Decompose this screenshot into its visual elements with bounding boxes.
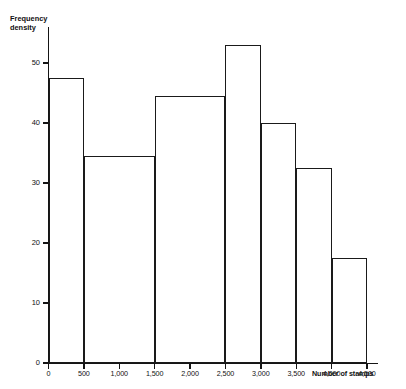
y-tick-label-text: 30	[24, 179, 40, 187]
y-tick-label-50: 50	[22, 59, 40, 67]
histogram-bar	[49, 78, 84, 363]
histogram-bar	[155, 96, 226, 363]
histogram-bar	[296, 168, 331, 363]
x-tick-label-1000: 1,000	[99, 369, 139, 378]
y-axis-title: Frequency density	[10, 14, 60, 32]
x-tick-label-2500: 2,500	[205, 369, 245, 378]
y-tick-label-40: 40	[22, 119, 40, 127]
histogram-bar	[332, 258, 367, 363]
x-tick-label-3500: 3,500	[276, 369, 316, 378]
y-tick-label-text: 50	[24, 59, 40, 67]
x-tick-label-500: 500	[64, 369, 104, 378]
y-tick-50	[43, 62, 49, 63]
y-tick-label-10: 10	[22, 299, 40, 307]
histogram-chart: Frequency density 01020304050 05001,0001…	[0, 0, 406, 389]
y-tick-label-text: 40	[24, 119, 40, 127]
x-axis-title: Number of stamps	[312, 369, 374, 378]
y-axis-title-line1: Frequency	[10, 14, 47, 23]
y-axis-title-line2: density	[10, 23, 36, 32]
y-tick-label-30: 30	[22, 179, 40, 187]
y-tick-label-text: 10	[24, 299, 40, 307]
x-tick-label-0: 0	[29, 369, 69, 378]
y-tick-label-text: 20	[24, 239, 40, 247]
y-tick-label-0: 0	[22, 359, 40, 367]
y-tick-label-20: 20	[22, 239, 40, 247]
x-tick-label-2000: 2,000	[170, 369, 210, 378]
histogram-bar	[84, 156, 155, 363]
histogram-bar	[225, 45, 260, 363]
y-tick-label-text: 0	[24, 359, 40, 367]
histogram-bar	[261, 123, 296, 363]
x-tick-label-1500: 1,500	[135, 369, 175, 378]
x-tick-label-3000: 3,000	[241, 369, 281, 378]
x-axis-line	[48, 363, 378, 364]
